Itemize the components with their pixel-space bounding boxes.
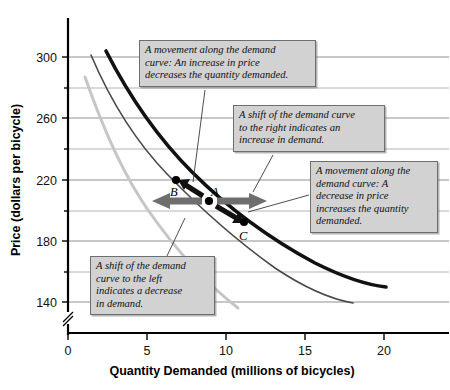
- callout-line: increases the quantity: [316, 203, 432, 216]
- y-tick-label-180: 180: [36, 235, 57, 249]
- callout-line: to the right indicates an: [239, 122, 379, 135]
- callout-shift-right: A shift of the demand curve to the right…: [233, 105, 385, 152]
- axis-break-icon: [63, 312, 73, 326]
- x-axis-title: Quantity Demanded (millions of bicycles): [109, 364, 354, 378]
- callout-line: in demand.: [96, 298, 209, 311]
- callout-shift-left: A shift of the demand curve to the left …: [90, 256, 215, 315]
- y-tick-label-300: 300: [36, 51, 57, 65]
- y-axis-title: Price (dollars per bicycle): [9, 104, 23, 256]
- data-point-label-C: C: [239, 229, 248, 243]
- callout-line: curve: An increase in price: [145, 57, 310, 70]
- y-tick-label-260: 260: [36, 112, 57, 126]
- callout-line: decrease in price: [316, 190, 432, 203]
- x-tick-label-0: 0: [65, 344, 72, 358]
- callout-line: decreases the quantity demanded.: [145, 69, 310, 82]
- data-point-C: [240, 218, 248, 226]
- y-tick-label-220: 220: [36, 174, 57, 188]
- data-point-label-A: A: [210, 185, 219, 199]
- callout-line: demanded.: [316, 215, 432, 228]
- x-tick-label-10: 10: [219, 344, 233, 358]
- callout-movement-decrease-price: A movement along the demand curve: A dec…: [310, 161, 438, 233]
- callout-line: curve to the left: [96, 273, 209, 286]
- arrow-shift-right: [217, 193, 267, 209]
- x-tick-label-20: 20: [377, 344, 391, 358]
- data-point-B: [172, 176, 180, 184]
- callout-movement-increase-price: A movement along the demand curve: An in…: [139, 40, 316, 87]
- demand-curve-figure: 300 260 220 180 140 0 5 10 15 20 Price (…: [0, 0, 450, 390]
- callout-line: A shift of the demand curve: [239, 109, 379, 122]
- x-tick-label-5: 5: [144, 344, 151, 358]
- callout-line: demand curve: A: [316, 178, 432, 191]
- callout-line: A movement along the: [316, 165, 432, 178]
- callout-line: indicates a decrease: [96, 285, 209, 298]
- y-tick-label-140: 140: [36, 296, 57, 310]
- data-point-label-B: B: [170, 185, 178, 199]
- x-tick-label-15: 15: [298, 344, 312, 358]
- callout-line: A shift of the demand: [96, 260, 209, 273]
- callout-line: increase in demand.: [239, 134, 379, 147]
- callout-line: A movement along the demand: [145, 44, 310, 57]
